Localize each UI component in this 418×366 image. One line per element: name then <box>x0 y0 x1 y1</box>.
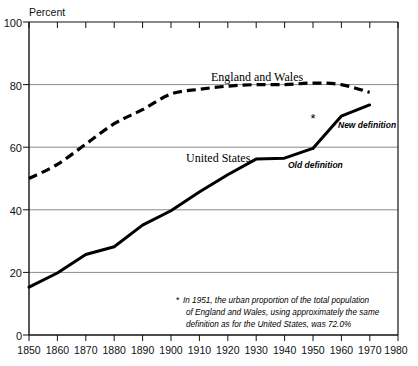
x-tick-label-1900: 1900 <box>159 344 183 356</box>
x-tick-label-1940: 1940 <box>273 344 297 356</box>
y-tick-label-20: 20 <box>10 267 22 279</box>
england-and-wales-label: England and Wales <box>211 70 303 84</box>
x-tick-label-1880: 1880 <box>103 344 127 356</box>
old-definition-label: Old definition <box>288 160 343 170</box>
y-tick-label-40: 40 <box>10 205 22 217</box>
x-tick-label-1890: 1890 <box>131 344 155 356</box>
y-tick-label-80: 80 <box>10 80 22 92</box>
x-tick-label-1920: 1920 <box>216 344 240 356</box>
x-tick-label-1980: 1980 <box>384 344 408 356</box>
y-tick-label-100: 100 <box>4 17 22 29</box>
footnote-block: * In 1951, the urban proportion of the t… <box>176 295 380 329</box>
united-states-label: United States <box>186 151 251 165</box>
x-tick-label-1910: 1910 <box>188 344 212 356</box>
x-tick-label-1930: 1930 <box>245 344 269 356</box>
urbanization-line-chart: Percent <box>0 0 418 366</box>
footnote-line-1: In 1951, the urban proportion of the tot… <box>183 296 370 305</box>
footnote-line-3: definition as for the United States, was… <box>186 320 351 329</box>
x-tick-label-1950: 1950 <box>301 344 325 356</box>
footnote-marker-icon: * <box>176 295 180 305</box>
x-tick-label-1850: 1850 <box>17 344 41 356</box>
x-tick-label-1970: 1970 <box>358 344 382 356</box>
new-definition-label: New definition <box>338 120 396 130</box>
x-tick-label-1860: 1860 <box>46 344 70 356</box>
y-tick-label-0: 0 <box>16 330 22 342</box>
chart-figure: Percent <box>0 0 418 366</box>
x-tick-label-1870: 1870 <box>74 344 98 356</box>
x-tick-label-1960: 1960 <box>330 344 354 356</box>
asterisk-marker-icon: * <box>310 111 315 126</box>
footnote-line-2: of England and Wales, using approximatel… <box>186 308 380 317</box>
y-tick-label-60: 60 <box>10 142 22 154</box>
y-axis-title: Percent <box>29 6 65 18</box>
